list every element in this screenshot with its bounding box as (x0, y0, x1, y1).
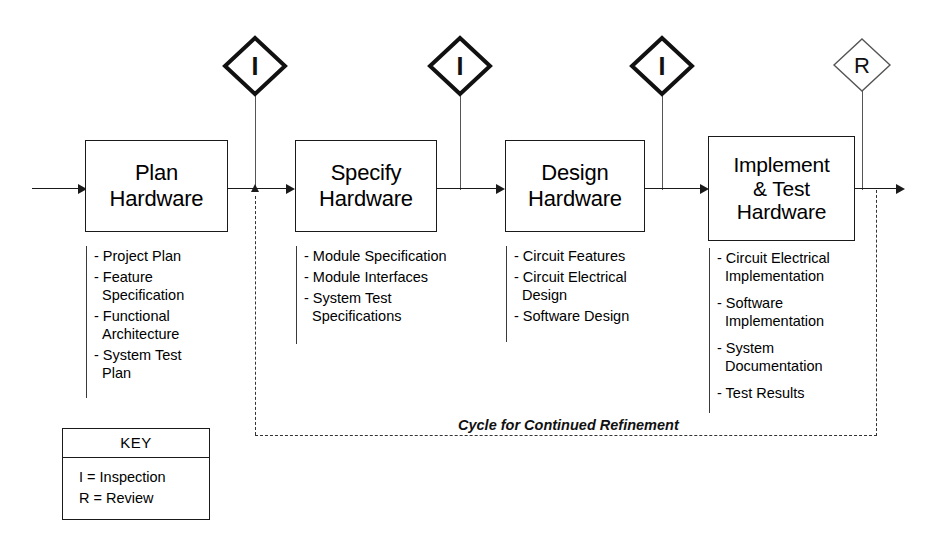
inspection-marker-symbol-2: I (457, 52, 464, 80)
key-legend-line-review: R = Review (79, 488, 209, 509)
cycle-refinement-label: Cycle for Continued Refinement (452, 417, 685, 433)
flow-line-design-to-implement (645, 188, 703, 189)
deliverable-item: - System Documentation (717, 340, 864, 376)
marker-stem-review-1 (862, 90, 863, 190)
inspection-marker-symbol-1: I (252, 52, 259, 80)
deliverable-item: - Module Specification (304, 248, 486, 266)
key-legend-body: I = Inspection R = Review (63, 458, 209, 518)
deliverable-item: - Circuit Electrical Implementation (717, 250, 864, 286)
phase-box-plan[interactable]: Plan Hardware (85, 140, 228, 232)
deliverable-item: - Software Implementation (717, 295, 864, 331)
process-entry-line (32, 188, 84, 189)
deliverable-item: - Circuit Electrical Design (514, 269, 671, 305)
flow-arrowhead-specify (286, 184, 295, 194)
key-legend: KEY I = Inspection R = Review (62, 428, 210, 520)
phase-title-design: Design Hardware (528, 160, 622, 212)
key-legend-title: KEY (63, 429, 209, 458)
review-marker-1[interactable]: R (831, 36, 893, 94)
inspection-marker-1[interactable]: I (222, 35, 288, 97)
deliverable-item: - Project Plan (94, 248, 236, 266)
phase-title-plan: Plan Hardware (110, 160, 204, 212)
deliverable-item: - System Test Specifications (304, 290, 486, 326)
flow-arrowhead-design (496, 184, 505, 194)
process-exit-arrowhead (896, 184, 905, 194)
deliverable-item: - System Test Plan (94, 347, 236, 383)
deliverable-item: - Functional Architecture (94, 308, 236, 344)
deliverables-implement-and-test: - Circuit Electrical Implementation - So… (709, 248, 864, 413)
feedback-loop-left-segment (255, 196, 256, 435)
inspection-marker-symbol-3: I (659, 52, 666, 80)
feedback-loop-right-segment (876, 190, 877, 436)
review-marker-symbol-1: R (854, 53, 870, 78)
deliverable-item: - Feature Specification (94, 269, 236, 305)
deliverables-plan: - Project Plan - Feature Specification -… (86, 246, 236, 398)
inspection-marker-3[interactable]: I (629, 35, 695, 97)
feedback-loop-arrowhead (251, 184, 259, 192)
flow-line-specify-to-design (437, 188, 497, 189)
deliverable-item: - Circuit Features (514, 248, 671, 266)
deliverable-item: - Test Results (717, 385, 864, 403)
phase-title-implement-and-test: Implement & Test Hardware (733, 153, 829, 225)
deliverables-specify: - Module Specification - Module Interfac… (296, 246, 486, 344)
phase-box-design[interactable]: Design Hardware (505, 140, 645, 232)
feedback-loop-bottom-segment (255, 435, 877, 436)
deliverables-design: - Circuit Features - Circuit Electrical … (506, 246, 671, 342)
diagram-canvas: Cycle for Continued Refinement Plan Hard… (0, 0, 931, 539)
inspection-marker-2[interactable]: I (427, 35, 493, 97)
marker-stem-inspection-1 (255, 92, 256, 190)
deliverable-item: - Software Design (514, 308, 671, 326)
marker-stem-inspection-3 (662, 92, 663, 190)
phase-title-specify: Specify Hardware (319, 160, 413, 212)
phase-box-specify[interactable]: Specify Hardware (295, 140, 437, 232)
deliverable-item: - Module Interfaces (304, 269, 486, 287)
phase-box-implement-and-test[interactable]: Implement & Test Hardware (708, 136, 855, 241)
marker-stem-inspection-2 (460, 92, 461, 190)
key-legend-line-inspection: I = Inspection (79, 467, 209, 488)
